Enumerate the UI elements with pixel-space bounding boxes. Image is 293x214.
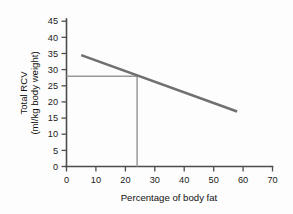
y-tick-label: 20 [48,97,58,107]
y-tick-label: 40 [48,33,58,43]
x-tick-label: 40 [179,175,189,185]
y-tick-label: 10 [48,129,58,139]
x-tick-label: 50 [209,175,219,185]
x-tick-label: 60 [238,175,248,185]
chart-figure: 0 5 10 15 20 25 30 35 40 45 0 10 20 [0,0,293,214]
x-tick-label: 30 [150,175,160,185]
x-tick-label: 70 [267,175,277,185]
x-axis-title: Percentage of body fat [121,192,218,203]
y-tick-label: 15 [48,113,58,123]
y-tick-label: 45 [48,16,58,26]
x-tick-label: 20 [120,175,130,185]
y-axis-title-line1: Total RCV [18,71,29,115]
y-tick-label: 5 [53,146,58,156]
y-axis-title-line2: (ml/kg body weight) [29,51,40,134]
y-tick-label: 25 [48,81,58,91]
y-tick-label: 30 [48,65,58,75]
y-tick-label: 35 [48,49,58,59]
line-chart: 0 5 10 15 20 25 30 35 40 45 0 10 20 [0,0,293,214]
chart-background [0,0,293,214]
y-tick-label: 0 [53,162,58,172]
x-tick-label: 10 [91,175,101,185]
x-tick-label: 0 [64,175,69,185]
